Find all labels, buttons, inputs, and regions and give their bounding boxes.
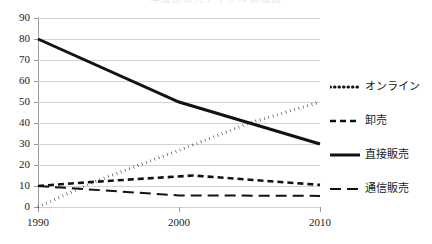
y-tick-mark (34, 186, 38, 187)
y-tick-mark (34, 123, 38, 124)
gridline (38, 60, 320, 61)
y-tick-mark (34, 60, 38, 61)
x-tick-mark (320, 207, 321, 212)
chart-title: 年度別販売チャネル構成比 (0, 0, 432, 5)
legend-item[interactable]: オンライン (330, 78, 420, 96)
line-chart: 年度別販売チャネル構成比 9080706050403020100 1990200… (0, 0, 432, 244)
y-tick-label: 80 (0, 33, 30, 44)
y-tick-mark (34, 18, 38, 19)
series-line-dashed (38, 176, 320, 187)
y-tick-label: 70 (0, 54, 30, 65)
legend-item-label: オンライン (365, 80, 420, 94)
gridline (38, 144, 320, 145)
legend-item[interactable]: 卸売 (330, 112, 387, 130)
y-tick-label: 60 (0, 75, 30, 86)
longdash-line-swatch (330, 182, 360, 196)
series-line-longdash (38, 186, 320, 196)
gridline (38, 81, 320, 82)
y-tick-label: 0 (0, 201, 30, 212)
gridline (38, 165, 320, 166)
x-tick-label: 1990 (15, 216, 61, 228)
x-tick-mark (38, 207, 39, 212)
gridline (38, 18, 320, 19)
dashed-line-swatch (330, 114, 360, 128)
x-tick-label: 2000 (156, 216, 202, 228)
y-tick-mark (34, 144, 38, 145)
y-tick-label: 90 (0, 12, 30, 23)
series-line-dotted (38, 102, 320, 207)
gridline (38, 123, 320, 124)
series-line-solid (38, 39, 320, 144)
y-tick-label: 40 (0, 117, 30, 128)
x-tick-mark (179, 207, 180, 212)
y-tick-mark (34, 165, 38, 166)
gridline (38, 39, 320, 40)
solid-line-swatch (330, 148, 360, 162)
gridline (38, 102, 320, 103)
legend-item-label: 卸売 (365, 114, 387, 128)
legend-item-label: 直接販売 (365, 148, 409, 162)
legend-item-label: 通信販売 (365, 182, 409, 196)
legend-item[interactable]: 通信販売 (330, 180, 409, 198)
x-tick-label: 2010 (297, 216, 343, 228)
dotted-line-swatch (330, 80, 360, 94)
y-tick-label: 10 (0, 180, 30, 191)
y-tick-mark (34, 81, 38, 82)
gridline (38, 186, 320, 187)
y-tick-mark (34, 39, 38, 40)
y-axis-line (38, 17, 39, 208)
y-tick-mark (34, 102, 38, 103)
y-tick-label: 20 (0, 159, 30, 170)
y-tick-label: 50 (0, 96, 30, 107)
y-tick-label: 30 (0, 138, 30, 149)
legend-item[interactable]: 直接販売 (330, 146, 409, 164)
